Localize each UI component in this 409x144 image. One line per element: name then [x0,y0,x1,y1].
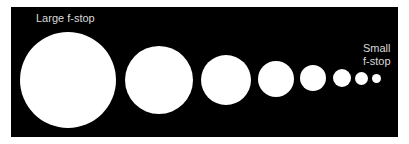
aperture-circle-6 [333,69,351,87]
aperture-circle-5 [300,65,326,91]
large-fstop-label: Large f-stop [36,12,95,25]
small-fstop-label-line1: Small [363,42,391,55]
aperture-circle-8 [372,74,381,83]
aperture-circle-3 [201,55,251,105]
aperture-circle-1 [20,32,116,128]
aperture-diagram-panel: Large f-stop Small f-stop [11,7,398,137]
aperture-circle-7 [355,72,368,85]
aperture-circle-2 [125,46,193,114]
small-fstop-label-line2: f-stop [363,55,391,68]
small-fstop-label: Small f-stop [363,42,391,68]
aperture-circle-4 [258,61,294,97]
